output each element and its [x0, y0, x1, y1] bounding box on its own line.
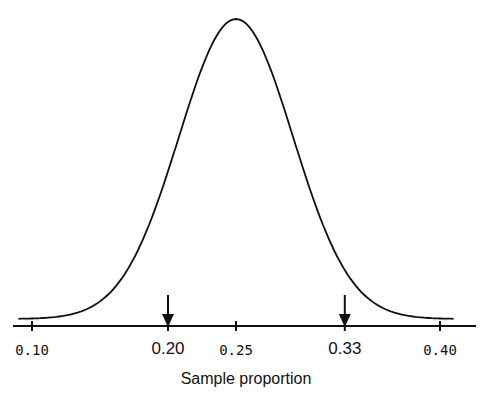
- x-tick-label: 0.25: [219, 342, 253, 358]
- x-tick-label: 0.20: [151, 339, 184, 358]
- x-axis-title: Sample proportion: [181, 370, 312, 387]
- down-arrow-icon: [162, 295, 174, 327]
- density-curve: [18, 19, 453, 319]
- x-tick-label: 0.10: [15, 342, 49, 358]
- x-tick-label: 0.40: [423, 342, 457, 358]
- annotation-arrows: [162, 295, 351, 327]
- x-tick-label: 0.33: [328, 339, 361, 358]
- bell-curve: [18, 19, 453, 319]
- down-arrow-icon: [339, 295, 351, 327]
- normal-distribution-chart: 0.100.200.250.330.40 Sample proportion: [0, 0, 485, 399]
